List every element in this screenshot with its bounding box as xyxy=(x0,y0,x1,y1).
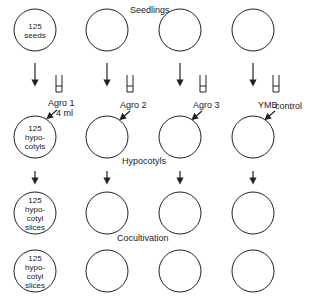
tube-label-agro3: Agro 3 xyxy=(193,100,220,110)
row-label-seedlings: Seedlings xyxy=(130,5,170,15)
tube-label-agro1: Agro 1 xyxy=(48,98,75,108)
seeds-count-text: 125 seeds xyxy=(15,22,55,40)
seedling-plate-3 xyxy=(159,9,201,51)
seedling-plate-2 xyxy=(86,9,128,51)
slices-count-text-row4: 125 hypo- cotyl slices xyxy=(15,254,55,290)
tube-label-control: control xyxy=(275,101,302,111)
row-label-cocultivation: Cocultivation xyxy=(117,233,169,243)
hypocotyls-count-text: 125 hypo- cotyls xyxy=(15,124,55,151)
tube-label-agro2: Agro 2 xyxy=(120,100,147,110)
row-label-hypocotyls: Hypocotyls xyxy=(122,156,166,166)
tube-volume-agro1: 4 ml xyxy=(56,108,73,118)
experiment-flow-diagram: Seedlings Hypocotyls Cocultivation Agro … xyxy=(0,0,313,302)
seedling-plate-4 xyxy=(232,9,274,51)
slices-count-text-row3: 125 hypo- cotyl slices xyxy=(15,196,55,232)
